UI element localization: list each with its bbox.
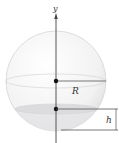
sphere-diagram: y R h bbox=[0, 0, 119, 143]
center-point bbox=[54, 79, 58, 83]
radius-label: R bbox=[71, 86, 79, 96]
height-label: h bbox=[106, 115, 112, 125]
y-axis-arrow-icon bbox=[54, 13, 58, 19]
y-axis-label: y bbox=[52, 4, 58, 13]
